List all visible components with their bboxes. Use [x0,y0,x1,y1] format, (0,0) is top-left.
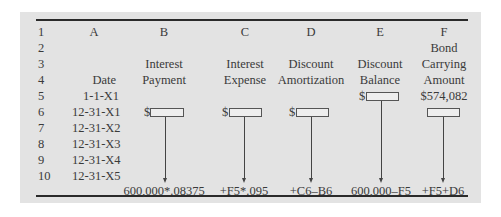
connector-line-c [244,117,245,179]
header-f-line3: Amount [424,73,465,87]
arrow-down-icon [379,178,383,183]
cell-d6-input-box [296,108,329,117]
formula-c: +F5*.095 [220,184,268,198]
cell-c6-input-box [229,108,262,117]
header-f-line1: Bond [430,41,457,55]
row-number: 8 [38,137,54,151]
header-b-line2: Interest [145,57,182,71]
cell-e5-dollar: $ [359,89,365,103]
date-cell: 12-31-X5 [72,169,121,183]
column-header-a: A [89,25,98,39]
date-cell: 12-31-X4 [72,153,121,167]
header-d-line2: Discount [288,57,333,71]
row-number: 2 [38,41,54,55]
header-c-line3: Expense [224,73,266,87]
date-cell: 1-1-X1 [83,89,119,103]
arrow-down-icon [441,178,445,183]
cell-f6-input-box [427,108,460,117]
cell-d6-dollar: $ [289,105,295,119]
formula-b: 600,000*.08375 [123,184,204,198]
cell-b6-input-box [150,108,184,117]
row-number: 10 [38,169,54,183]
cell-f5-value: $574,082 [421,89,468,103]
row-number: 4 [38,73,54,87]
column-header-c: C [241,25,249,39]
top-rule [36,19,468,21]
connector-line-b [165,117,166,179]
header-f-line2: Carrying [422,57,466,71]
cell-c6-dollar: $ [222,105,228,119]
header-a-line3: Date [92,73,116,87]
arrow-down-icon [163,178,167,183]
header-c-line2: Interest [226,57,263,71]
row-number: 5 [38,89,54,103]
column-header-f: F [441,25,448,39]
row-number: 1 [38,25,54,39]
row-number: 6 [38,105,54,119]
date-cell: 12-31-X3 [72,137,121,151]
arrow-down-icon [242,178,246,183]
date-cell: 12-31-X2 [72,121,121,135]
header-b-line3: Payment [142,73,186,87]
connector-line-e [381,101,382,179]
row-number: 9 [38,153,54,167]
row-number: 7 [38,121,54,135]
column-header-b: B [160,25,168,39]
formula-d: +C6–B6 [290,184,332,198]
column-header-e: E [376,25,384,39]
header-d-line3: Amortization [278,73,345,87]
header-e-line3: Balance [360,73,400,87]
column-header-d: D [306,25,315,39]
connector-line-f [443,117,444,179]
arrow-down-icon [309,178,313,183]
cell-e5-input-box [366,92,399,101]
formula-e: 600,000–F5 [351,184,411,198]
formula-f: +F5+D6 [422,184,465,198]
header-e-line2: Discount [357,57,402,71]
connector-line-d [311,117,312,179]
row-number: 3 [38,57,54,71]
date-cell: 12-31-X1 [72,105,121,119]
